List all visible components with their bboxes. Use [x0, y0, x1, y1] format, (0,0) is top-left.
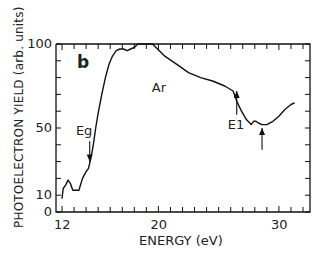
x-tick-label: 20 — [150, 217, 167, 232]
annotation-eg: Eg — [76, 123, 92, 138]
y-axis-label: PHOTOELECTRON YIELD (arb. units) — [12, 6, 26, 228]
data-series-ar — [62, 44, 295, 199]
x-axis-label: ENERGY (eV) — [139, 233, 223, 248]
panel-label: b — [77, 52, 89, 72]
annotation-e1: E1 — [228, 117, 245, 132]
y-tick-label: 50 — [35, 120, 52, 135]
y-tick-label: 100 — [27, 36, 52, 51]
x-tick-label: 12 — [54, 217, 71, 232]
annotation-ar: Ar — [152, 80, 166, 95]
y-tick-label: 10 — [35, 187, 52, 202]
x-tick-label: 30 — [271, 217, 288, 232]
y-tick-label: 0 — [44, 204, 52, 219]
